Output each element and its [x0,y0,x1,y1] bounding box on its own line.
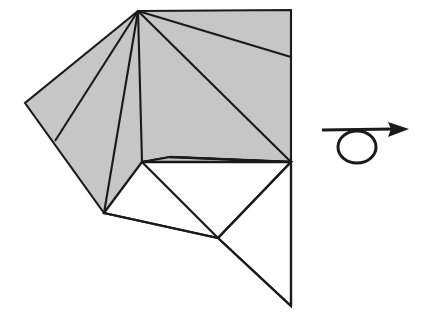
paper-faces-group [25,10,291,306]
turn-over-loop-icon [338,131,376,163]
origami-figure-svg [0,0,430,326]
turn-over-arrowhead-icon [388,122,409,137]
turn-over-shaft-line [322,129,394,130]
origami-diagram-root [0,0,430,326]
turn-over-arrow-symbol [322,122,409,163]
